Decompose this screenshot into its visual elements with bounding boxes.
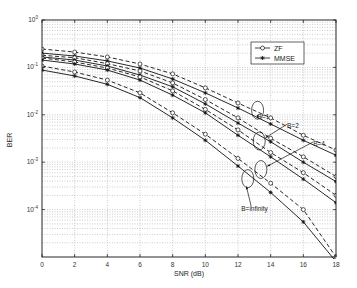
circle-marker-icon	[236, 101, 240, 105]
asterisk-marker-icon	[138, 96, 142, 100]
series-line	[42, 66, 336, 257]
ber-vs-snr-chart: B=1B=2B=4B=infinity 10010-110-210-310-4 …	[0, 0, 357, 288]
circle-marker-icon	[301, 208, 305, 212]
asterisk-marker-icon	[203, 91, 207, 95]
x-tick-label: 14	[267, 261, 275, 268]
asterisk-marker-icon	[236, 121, 240, 125]
annotation-label: B=infinity	[241, 205, 268, 213]
circle-marker-icon	[301, 171, 305, 175]
circle-marker-icon	[138, 91, 142, 95]
y-tick-label: 10-4	[27, 205, 39, 213]
asterisk-marker-icon	[73, 62, 77, 66]
x-tick-label: 6	[138, 261, 142, 268]
asterisk-marker-icon	[105, 68, 109, 72]
y-tick-label: 10-3	[27, 157, 39, 165]
circle-marker-icon	[269, 136, 273, 140]
asterisk-marker-icon	[269, 140, 273, 144]
circle-marker-icon	[171, 111, 175, 115]
x-tick-label: 18	[332, 261, 340, 268]
asterisk-marker-icon	[171, 116, 175, 120]
y-tick-label: 100	[28, 15, 38, 23]
asterisk-marker-icon	[171, 85, 175, 89]
asterisk-marker-icon	[301, 160, 305, 164]
circle-marker-icon	[105, 78, 109, 82]
annotation-label: B=4	[313, 140, 325, 147]
x-tick-label: 0	[40, 261, 44, 268]
circle-marker-icon	[203, 86, 207, 90]
circle-marker-icon	[269, 151, 273, 155]
asterisk-marker-icon	[203, 138, 207, 142]
circle-marker-icon	[236, 128, 240, 132]
series-group	[40, 47, 338, 264]
annotations-group: B=1B=2B=4B=infinity	[241, 101, 325, 212]
series-line	[42, 55, 336, 176]
circle-marker-icon	[203, 132, 207, 136]
annotation-label: B=2	[287, 122, 299, 129]
legend-mmse-label: MMSE	[274, 55, 295, 62]
x-tick-label: 16	[300, 261, 308, 268]
legend-zf-label: ZF	[274, 45, 283, 52]
circle-marker-icon	[171, 81, 175, 85]
asterisk-marker-icon	[73, 74, 77, 78]
circle-marker-icon	[203, 107, 207, 111]
x-tick-label: 4	[106, 261, 110, 268]
y-tick-label: 10-2	[27, 110, 39, 118]
series-line	[42, 57, 336, 182]
circle-marker-icon	[73, 70, 77, 74]
series-line	[42, 60, 336, 203]
asterisk-marker-icon	[269, 122, 273, 126]
circle-marker-icon	[171, 89, 175, 93]
asterisk-marker-icon	[301, 220, 305, 224]
asterisk-marker-icon	[138, 78, 142, 82]
annotation-label: B=1	[258, 113, 270, 120]
circle-marker-icon	[73, 50, 77, 54]
circle-marker-icon	[301, 133, 305, 137]
legend: ZF MMSE	[251, 42, 304, 64]
legend-mmse-asterisk-icon	[261, 56, 265, 60]
circle-marker-icon	[105, 55, 109, 59]
asterisk-marker-icon	[269, 190, 273, 194]
x-tick-label: 2	[73, 261, 77, 268]
circle-marker-icon	[203, 98, 207, 102]
circle-marker-icon	[269, 181, 273, 185]
y-tick-label: 10-1	[27, 62, 39, 70]
asterisk-marker-icon	[301, 138, 305, 142]
asterisk-marker-icon	[203, 102, 207, 106]
asterisk-marker-icon	[203, 111, 207, 115]
asterisk-marker-icon	[236, 133, 240, 137]
annotation-arrow	[246, 186, 251, 206]
asterisk-marker-icon	[171, 93, 175, 97]
x-tick-label: 8	[171, 261, 175, 268]
asterisk-marker-icon	[105, 82, 109, 86]
circle-marker-icon	[171, 72, 175, 76]
annotation-ellipse	[242, 170, 254, 188]
circle-marker-icon	[236, 156, 240, 160]
annotation-arrow	[267, 142, 313, 166]
asterisk-marker-icon	[269, 155, 273, 159]
circle-marker-icon	[138, 62, 142, 66]
asterisk-marker-icon	[236, 164, 240, 168]
x-axis-label: SNR (dB)	[174, 270, 204, 278]
x-tick-label: 12	[234, 261, 242, 268]
asterisk-marker-icon	[301, 177, 305, 181]
y-axis-label: BER	[6, 133, 13, 147]
asterisk-marker-icon	[236, 106, 240, 110]
circle-marker-icon	[301, 155, 305, 159]
circle-marker-icon	[138, 69, 142, 73]
legend-zf-circle-icon	[261, 46, 265, 50]
circle-marker-icon	[236, 116, 240, 120]
x-tick-label: 10	[202, 261, 210, 268]
asterisk-marker-icon	[171, 77, 175, 81]
